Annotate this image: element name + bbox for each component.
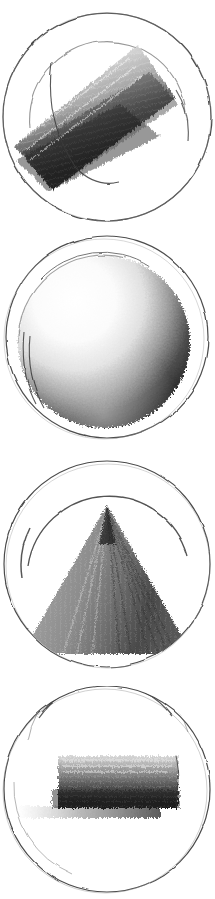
inner-construction-arc [38, 686, 172, 718]
reflected-light [18, 256, 190, 428]
study-panel-sphere-study: Shaded sphere [0, 232, 215, 458]
cylinder-study-drawing [0, 686, 215, 899]
drawing-sheet: Graded value band [0, 0, 215, 899]
cone-study-drawing [0, 458, 215, 686]
study-panel-cone-study: Shaded cone [0, 458, 215, 686]
inner-arc-left [21, 528, 30, 578]
study-panel-cylinder-study: Shaded cylinder [0, 686, 215, 899]
value-scale-band-drawing [0, 0, 215, 232]
inner-arc-right [176, 90, 188, 140]
cylinder-underside [52, 790, 180, 808]
inner-construction-arc-upper [28, 686, 188, 740]
study-panel-value-scale-band: Graded value band [0, 0, 215, 232]
sphere-study-drawing [0, 232, 215, 458]
